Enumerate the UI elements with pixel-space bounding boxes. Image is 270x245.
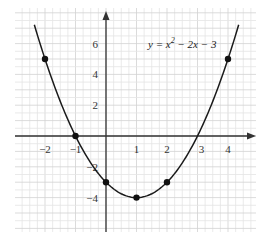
data-point bbox=[133, 194, 139, 200]
x-tick-label: 2 bbox=[164, 143, 170, 155]
y-tick-label: 6 bbox=[93, 38, 99, 50]
x-tick-label: 3 bbox=[199, 143, 205, 155]
x-axis-arrow-icon bbox=[247, 133, 256, 140]
x-tick-label: 4 bbox=[225, 143, 231, 155]
equation-label: y = x2 − 2x − 3 bbox=[147, 36, 217, 50]
y-axis-arrow-icon bbox=[103, 11, 110, 20]
y-tick-label: −4 bbox=[86, 192, 98, 204]
x-tick-label: 1 bbox=[134, 143, 140, 155]
y-tick-label: 4 bbox=[93, 68, 99, 80]
data-point bbox=[72, 133, 78, 139]
parabola-chart: −2−11234 642−2−4 y = x2 − 2x − 3 bbox=[0, 0, 270, 245]
data-point bbox=[42, 56, 48, 62]
data-point bbox=[225, 56, 231, 62]
data-point bbox=[164, 179, 170, 185]
data-point bbox=[103, 179, 109, 185]
equation-rhs: − 2x − 3 bbox=[175, 38, 217, 50]
x-tick-label: −2 bbox=[39, 143, 51, 155]
equation-lhs: y = x bbox=[147, 38, 171, 50]
y-tick-label: 2 bbox=[93, 99, 99, 111]
